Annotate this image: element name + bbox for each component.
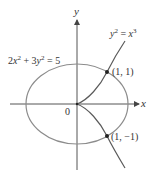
cusp-equation-label: y2 = x3 bbox=[110, 29, 137, 39]
origin-point bbox=[76, 103, 78, 105]
curve-exp-x: 3 bbox=[133, 27, 137, 35]
y-axis-label: y bbox=[74, 6, 79, 17]
intersection-point-1-neg1 bbox=[105, 134, 109, 138]
curve-equals: = bbox=[118, 28, 129, 39]
ellipse-plus: + bbox=[21, 55, 32, 66]
ellipse-rhs: = 5 bbox=[45, 55, 61, 66]
ellipse-equation-label: 2x2 + 3y2 = 5 bbox=[8, 56, 60, 66]
point-label-1-neg1: (1, −1) bbox=[111, 132, 138, 142]
x-axis-label: x bbox=[141, 98, 146, 109]
point-label-1-1: (1, 1) bbox=[112, 67, 134, 77]
origin-label: 0 bbox=[65, 107, 70, 117]
figure: y x 0 2x2 + 3y2 = 5 y2 = x3 (1, 1) (1, −… bbox=[0, 0, 158, 175]
intersection-point-1-1 bbox=[105, 70, 109, 74]
